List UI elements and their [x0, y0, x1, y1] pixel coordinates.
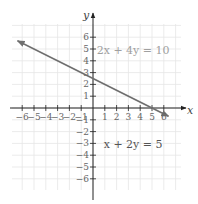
chart: xy−6−5−4−3−2−1123456−6−5−4−3−2−11234562x… [0, 0, 198, 204]
x-tick-label: 2 [114, 112, 120, 122]
y-tick-label: 3 [83, 68, 89, 78]
equation-label-x-2y: x + 2y = 5 [104, 138, 163, 151]
y-tick-label: −5 [76, 162, 90, 172]
y-tick-label: 6 [83, 32, 89, 42]
x-tick-label: 4 [137, 112, 143, 122]
x-tick-label: 5 [149, 112, 155, 122]
y-tick-label: −3 [76, 138, 90, 148]
x-tick-label: 3 [126, 112, 132, 122]
x-axis-label: x [187, 104, 194, 117]
equation-label-2x-4y: 2x + 4y = 10 [97, 44, 170, 57]
axes [10, 13, 186, 200]
y-tick-label: −4 [76, 150, 90, 160]
y-tick-label: −2 [76, 127, 89, 137]
y-axis-label: y [82, 9, 90, 22]
x-tick-label: 1 [102, 112, 108, 122]
x-tick-label: 6 [161, 112, 167, 122]
y-tick-label: 4 [83, 56, 89, 66]
y-tick-label: −1 [76, 115, 89, 125]
y-tick-label: 5 [83, 44, 89, 54]
y-tick-label: 2 [83, 79, 89, 89]
y-tick-label: −6 [76, 174, 90, 184]
y-tick-label: 1 [83, 91, 89, 101]
